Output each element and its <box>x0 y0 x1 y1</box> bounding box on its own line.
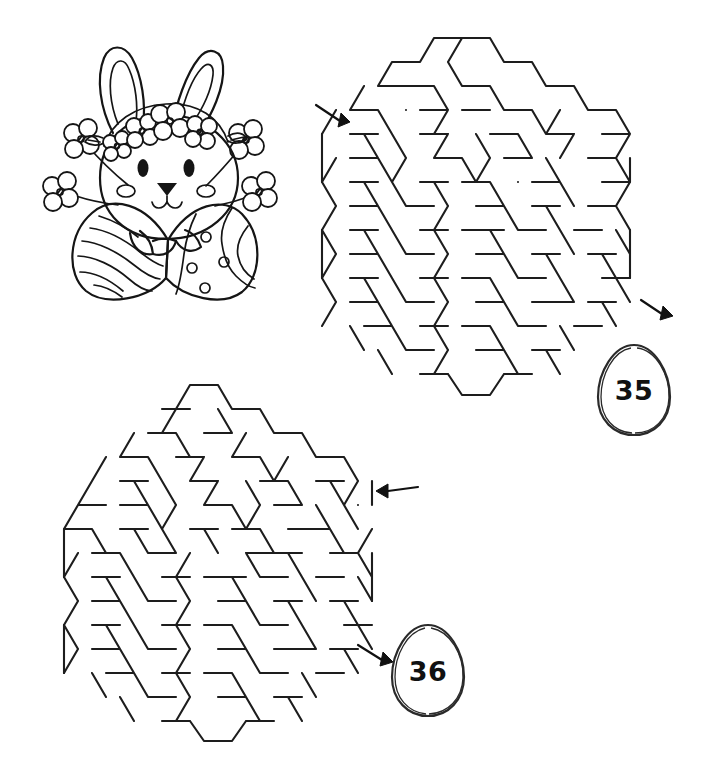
egg-badge-36: 36 <box>392 625 464 716</box>
worksheet-page: 35 36 <box>0 0 720 779</box>
badge-label-36: 36 <box>409 656 448 687</box>
badge-36: 36 <box>0 0 720 779</box>
